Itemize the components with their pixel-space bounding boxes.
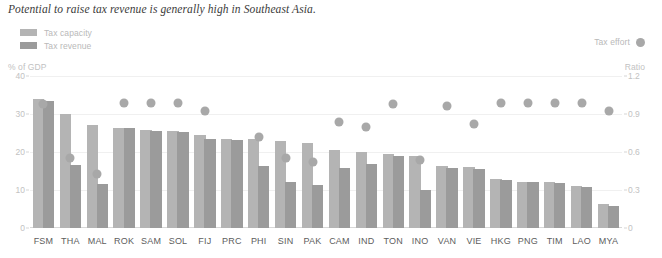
bar-tax-revenue[interactable] xyxy=(446,168,457,228)
bar-group: PRC xyxy=(221,76,243,228)
bar-group: THA xyxy=(60,76,82,228)
legend-tax-effort-label: Tax effort xyxy=(594,37,630,47)
x-axis-category-label: IND xyxy=(358,236,374,246)
tax-effort-dot[interactable] xyxy=(93,169,102,178)
legend-item-label: Tax revenue xyxy=(44,41,91,51)
tax-effort-dot[interactable] xyxy=(604,107,613,116)
bar-tax-revenue[interactable] xyxy=(393,156,404,228)
bar-group: VIE xyxy=(463,76,485,228)
y-axis-right-tick-mark xyxy=(624,152,627,153)
chart-title: Potential to raise tax revenue is genera… xyxy=(8,3,316,15)
bar-tax-revenue[interactable] xyxy=(124,128,135,228)
bar-group: MAL xyxy=(87,76,109,228)
tax-effort-dot[interactable] xyxy=(550,98,559,107)
tax-effort-dot[interactable] xyxy=(308,158,317,167)
x-axis-category-label: PRC xyxy=(222,236,242,246)
tax-effort-dot[interactable] xyxy=(147,98,156,107)
y-axis-right-tick-label: 0 xyxy=(628,223,633,233)
y-axis-right-tick-mark xyxy=(624,76,627,77)
x-axis-category-label: MAL xyxy=(88,236,107,246)
tax-effort-dot[interactable] xyxy=(281,154,290,163)
tax-effort-dot[interactable] xyxy=(66,154,75,163)
bar-group: INO xyxy=(409,76,431,228)
bar-tax-revenue[interactable] xyxy=(43,101,54,228)
bar-tax-revenue[interactable] xyxy=(366,164,377,228)
y-axis-right-tick-mark xyxy=(624,228,627,229)
x-axis-category-label: SIN xyxy=(278,236,294,246)
tax-effort-dot[interactable] xyxy=(200,107,209,116)
bar-tax-revenue[interactable] xyxy=(150,131,161,228)
x-axis-category-label: FSM xyxy=(34,236,54,246)
bar-tax-revenue[interactable] xyxy=(177,132,188,228)
y-axis-left-tick-label: 30 xyxy=(16,109,25,119)
y-axis-left-tick-mark xyxy=(26,152,29,153)
x-axis-category-label: THA xyxy=(61,236,80,246)
bar-group: MYA xyxy=(598,76,620,228)
x-axis-category-label: MYA xyxy=(599,236,618,246)
bar-tax-revenue[interactable] xyxy=(554,183,565,228)
x-axis-category-label: TIM xyxy=(547,236,563,246)
x-axis-category-label: FIJ xyxy=(198,236,211,246)
bar-tax-revenue[interactable] xyxy=(581,187,592,228)
x-axis-category-label: INO xyxy=(412,236,429,246)
x-axis-category-label: LAO xyxy=(572,236,591,246)
legend-series: Tax capacityTax revenue xyxy=(20,27,92,53)
x-axis-category-label: PHI xyxy=(251,236,267,246)
bar-tax-revenue[interactable] xyxy=(70,165,81,228)
tax-effort-dot[interactable] xyxy=(470,120,479,129)
bar-tax-revenue[interactable] xyxy=(285,182,296,228)
x-axis-category-label: VIE xyxy=(466,236,481,246)
legend-tax-effort: Tax effort xyxy=(594,37,645,47)
tax-effort-dot[interactable] xyxy=(39,99,48,108)
bar-tax-revenue[interactable] xyxy=(258,166,269,228)
x-axis-category-label: ROK xyxy=(114,236,134,246)
tax-effort-dot[interactable] xyxy=(254,132,263,141)
bar-group: VAN xyxy=(436,76,458,228)
tax-effort-dot[interactable] xyxy=(496,98,505,107)
y-axis-left-tick-label: 10 xyxy=(16,185,25,195)
x-axis-category-label: HKG xyxy=(491,236,511,246)
legend-swatch-icon xyxy=(20,29,37,36)
bar-tax-revenue[interactable] xyxy=(97,184,108,228)
y-axis-left-tick-label: 40 xyxy=(16,71,25,81)
x-axis-category-label: CAM xyxy=(329,236,350,246)
bar-tax-revenue[interactable] xyxy=(231,140,242,228)
bar-group: PHI xyxy=(248,76,270,228)
bar-tax-revenue[interactable] xyxy=(473,169,484,228)
tax-effort-dot[interactable] xyxy=(523,98,532,107)
tax-effort-dot[interactable] xyxy=(174,98,183,107)
bar-tax-revenue[interactable] xyxy=(500,180,511,228)
y-axis-left-tick-mark xyxy=(26,228,29,229)
y-axis-left-tick-mark xyxy=(26,76,29,77)
bar-tax-revenue[interactable] xyxy=(312,185,323,228)
bar-tax-revenue[interactable] xyxy=(204,139,215,228)
y-axis-right-tick-label: 0.9 xyxy=(628,109,640,119)
tax-capacity-chart: Potential to raise tax revenue is genera… xyxy=(0,0,662,258)
y-axis-right-tick-mark xyxy=(624,114,627,115)
plot-area: 01020304000.30.60.91.2FSMTHAMALROKSAMSOL… xyxy=(30,76,622,228)
tax-effort-marker-icon xyxy=(636,38,645,47)
tax-effort-dot[interactable] xyxy=(389,99,398,108)
bar-tax-revenue[interactable] xyxy=(420,190,431,228)
tax-effort-dot[interactable] xyxy=(120,98,129,107)
bar-group: SIN xyxy=(275,76,297,228)
tax-effort-dot[interactable] xyxy=(362,122,371,131)
bar-tax-revenue[interactable] xyxy=(339,168,350,228)
legend-item-label: Tax capacity xyxy=(44,28,92,38)
y-axis-left-tick-label: 0 xyxy=(20,223,25,233)
bar-group: IND xyxy=(356,76,378,228)
tax-effort-dot[interactable] xyxy=(335,117,344,126)
bar-tax-revenue[interactable] xyxy=(527,182,538,228)
x-axis-category-label: PNG xyxy=(518,236,538,246)
y-axis-left-title: % of GDP xyxy=(8,62,47,72)
legend-item[interactable]: Tax capacity xyxy=(20,27,92,38)
x-axis-category-label: SAM xyxy=(141,236,161,246)
y-axis-right-tick-label: 0.6 xyxy=(628,147,640,157)
legend-item[interactable]: Tax revenue xyxy=(20,40,92,51)
tax-effort-dot[interactable] xyxy=(443,102,452,111)
y-axis-right-tick-label: 0.3 xyxy=(628,185,640,195)
tax-effort-dot[interactable] xyxy=(416,155,425,164)
bar-tax-revenue[interactable] xyxy=(608,206,619,228)
bar-group: FIJ xyxy=(194,76,216,228)
tax-effort-dot[interactable] xyxy=(577,98,586,107)
